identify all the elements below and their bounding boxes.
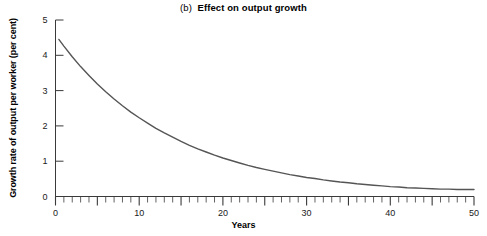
- y-tick-label: 2: [34, 121, 48, 131]
- data-series-group: [59, 39, 474, 189]
- y-tick-label: 1: [34, 156, 48, 166]
- y-axis-label: Growth rate of output per worker (per ce…: [8, 0, 18, 218]
- chart-plot-area: [0, 0, 487, 236]
- x-tick-label: 0: [53, 208, 58, 218]
- data-line-growth-rate: [59, 39, 474, 189]
- y-axis-ticks: [56, 20, 64, 197]
- y-tick-label: 3: [34, 86, 48, 96]
- y-tick-label: 0: [34, 192, 48, 202]
- panel-tag-label: (b): [180, 2, 192, 13]
- chart-figure: (b) Effect on output growth Growth rate …: [0, 0, 487, 236]
- x-tick-label: 30: [302, 208, 312, 218]
- y-tick-label: 4: [34, 50, 48, 60]
- x-tick-label: 50: [469, 208, 479, 218]
- x-axis-ticks: [56, 197, 475, 206]
- chart-title: (b) Effect on output growth: [0, 2, 487, 13]
- x-tick-label: 20: [218, 208, 228, 218]
- chart-title-main: Effect on output growth: [197, 2, 306, 13]
- x-axis-label: Years: [0, 220, 487, 230]
- y-tick-label: 5: [34, 15, 48, 25]
- axes: [55, 20, 474, 197]
- x-tick-label: 10: [134, 208, 144, 218]
- x-tick-label: 40: [385, 208, 395, 218]
